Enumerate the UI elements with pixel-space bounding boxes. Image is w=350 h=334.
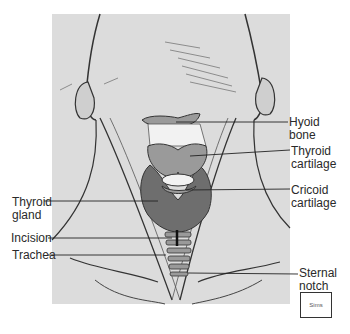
label-incision: Incision bbox=[11, 232, 52, 245]
artist-credit: Sims bbox=[300, 292, 332, 318]
label-hyoid-bone: Hyoid bone bbox=[289, 116, 320, 141]
label-thyroid-gland: Thyroid gland bbox=[12, 196, 52, 221]
anatomy-figure: Hyoid bone Thyroid cartilage Cricoid car… bbox=[0, 0, 350, 334]
label-sternal-notch: Sternal notch bbox=[299, 267, 337, 292]
label-thyroid-cartilage: Thyroid cartilage bbox=[291, 145, 336, 170]
credit-text: Sims bbox=[309, 302, 322, 308]
label-cricoid-cartilage: Cricoid cartilage bbox=[291, 184, 336, 209]
label-trachea: Trachea bbox=[12, 249, 56, 262]
